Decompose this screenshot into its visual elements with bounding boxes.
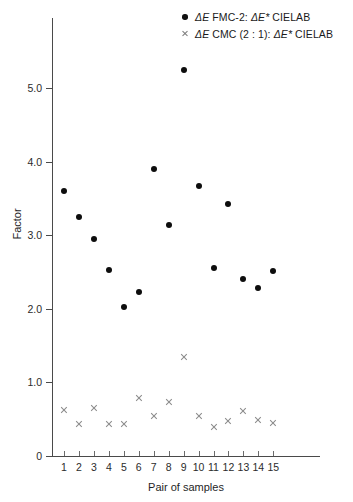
- data-point-fmc2: [270, 268, 276, 274]
- data-point-fmc2: [211, 265, 217, 271]
- x-tick: [154, 451, 155, 456]
- x-axis-title: Pair of samples: [52, 481, 320, 493]
- y-tick-label: 5.0: [2, 82, 42, 94]
- data-point-cmc: [165, 398, 173, 406]
- data-point-fmc2: [151, 166, 157, 172]
- data-point-fmc2: [255, 285, 261, 291]
- x-tick: [273, 451, 274, 456]
- y-axis-line: [52, 18, 53, 457]
- chart-figure: ΔE FMC-2: ΔE* CIELAB ΔE CMC (2 : 1): ΔE*…: [0, 0, 353, 502]
- y-tick-label: 2.0: [2, 303, 42, 315]
- x-tick: [139, 451, 140, 456]
- data-point-fmc2: [76, 214, 82, 220]
- x-tick: [79, 451, 80, 456]
- data-point-cmc: [269, 419, 277, 427]
- x-tick: [109, 451, 110, 456]
- x-tick: [258, 451, 259, 456]
- y-tick: [46, 382, 52, 383]
- data-point-fmc2: [121, 304, 127, 310]
- data-point-cmc: [60, 406, 68, 414]
- x-tick: [243, 451, 244, 456]
- data-point-fmc2: [196, 183, 202, 189]
- data-point-cmc: [210, 423, 218, 431]
- x-tick: [184, 451, 185, 456]
- data-point-cmc: [224, 417, 232, 425]
- data-point-cmc: [239, 407, 247, 415]
- data-point-cmc: [75, 420, 83, 428]
- data-point-cmc: [180, 353, 188, 361]
- y-tick-label: 4.0: [2, 156, 42, 168]
- x-tick: [124, 451, 125, 456]
- x-tick: [94, 451, 95, 456]
- y-tick-label: 0: [2, 450, 42, 462]
- data-point-fmc2: [106, 267, 112, 273]
- y-axis-title: Factor: [11, 184, 23, 264]
- data-point-fmc2: [166, 222, 172, 228]
- plot-area: 01.02.03.04.05.0 123456789101112131415 F…: [0, 0, 353, 502]
- y-tick-label: 1.0: [2, 376, 42, 388]
- y-tick: [46, 88, 52, 89]
- data-point-cmc: [90, 404, 98, 412]
- x-tick: [228, 451, 229, 456]
- data-point-cmc: [150, 412, 158, 420]
- data-point-fmc2: [225, 201, 231, 207]
- x-tick: [169, 451, 170, 456]
- data-point-cmc: [135, 394, 143, 402]
- data-point-fmc2: [91, 236, 97, 242]
- data-point-fmc2: [240, 276, 246, 282]
- x-tick-label: 15: [262, 461, 284, 473]
- x-tick: [214, 451, 215, 456]
- y-tick: [46, 162, 52, 163]
- data-point-fmc2: [181, 67, 187, 73]
- data-point-fmc2: [61, 188, 67, 194]
- x-tick: [64, 451, 65, 456]
- x-tick: [199, 451, 200, 456]
- data-point-fmc2: [136, 289, 142, 295]
- y-tick: [46, 456, 52, 457]
- data-point-cmc: [254, 416, 262, 424]
- data-point-cmc: [120, 420, 128, 428]
- x-axis-line: [52, 456, 320, 457]
- data-point-cmc: [105, 420, 113, 428]
- data-point-cmc: [195, 412, 203, 420]
- y-tick: [46, 309, 52, 310]
- y-tick: [46, 235, 52, 236]
